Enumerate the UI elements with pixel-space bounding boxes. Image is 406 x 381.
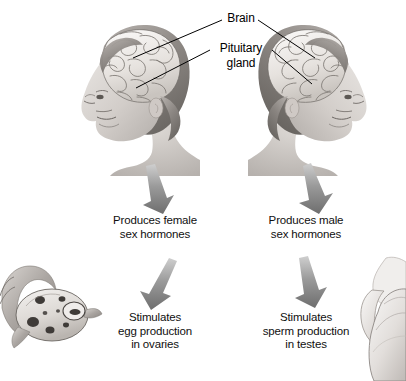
female-effect-line2: egg production [99, 325, 211, 339]
callout-pituitary-line1: Pituitary [208, 41, 274, 56]
arrow-male-top [299, 163, 333, 214]
male-effect-line1: Stimulates [246, 311, 366, 325]
female-hormone-text: Produces female sex hormones [97, 214, 213, 241]
arrow-male-bottom [295, 256, 327, 308]
male-hormone-line2: sex hormones [251, 228, 361, 242]
callout-brain-label: Brain [227, 11, 255, 25]
ovary-illustration [0, 266, 102, 348]
male-hormone-text: Produces male sex hormones [251, 214, 361, 241]
callout-pituitary-line2: gland [208, 56, 274, 71]
arrow-female-top [143, 164, 174, 214]
female-hormone-line1: Produces female [97, 214, 213, 228]
female-head-illustration [81, 25, 200, 176]
female-effect-line1: Stimulates [99, 311, 211, 325]
male-hormone-line1: Produces male [251, 214, 361, 228]
callout-pituitary-gland: Pituitary gland [208, 41, 274, 70]
callout-brain: Brain [224, 11, 258, 26]
arrow-female-bottom [140, 258, 177, 310]
female-effect-line3: in ovaries [99, 338, 211, 352]
leader-pituitary-male [272, 50, 312, 84]
female-hormone-line2: sex hormones [97, 228, 213, 242]
male-effect-line2: sperm production [246, 325, 366, 339]
testis-illustration [361, 257, 406, 381]
male-effect-text: Stimulates sperm production in testes [246, 311, 366, 352]
female-effect-text: Stimulates egg production in ovaries [99, 311, 211, 352]
endocrine-reproduction-diagram: Brain Pituitary gland Produces female se… [0, 0, 406, 381]
male-effect-line3: in testes [246, 338, 366, 352]
leader-pituitary-female [136, 50, 210, 88]
